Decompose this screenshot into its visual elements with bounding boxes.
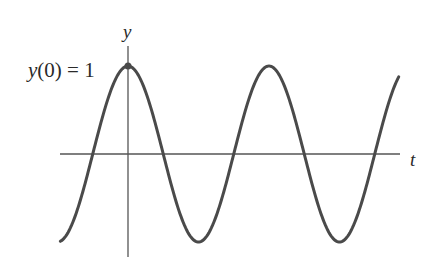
y-axis-label: y: [121, 21, 132, 42]
chart: y t y(0) = 1: [0, 0, 438, 276]
t-axis-label: t: [410, 149, 416, 170]
initial-condition-label: y(0) = 1: [26, 58, 95, 82]
initial-point-marker: [125, 63, 132, 70]
